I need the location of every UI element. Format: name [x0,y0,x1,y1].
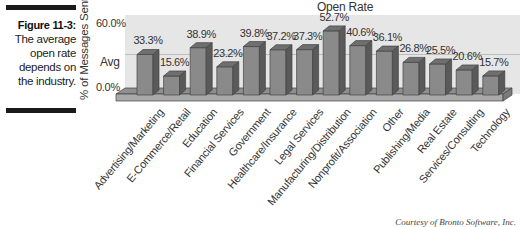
bar-value-label: 39.8% [240,27,269,39]
bar-value-label: 20.6% [453,50,482,62]
bar-value-label: 15.6% [160,56,189,68]
bar-value-label: 26.8% [399,42,428,54]
bar-value-label: 33.3% [133,34,162,46]
image-credit: Courtesy of Bronto Software, Inc. [395,217,516,227]
bar-value-label: 15.7% [479,56,508,68]
bar-value-label: 23.2% [213,47,242,59]
bar-value-label: 37.2% [266,30,295,42]
bar-value-label: 38.9% [187,28,216,40]
bar-value-label: 36.1% [373,31,402,43]
bar-value-label: 37.3% [293,30,322,42]
bar-value-label: 52.7% [320,11,349,23]
bar-value-label: 25.5% [426,44,455,56]
bar-value-label: 40.6% [346,26,375,38]
